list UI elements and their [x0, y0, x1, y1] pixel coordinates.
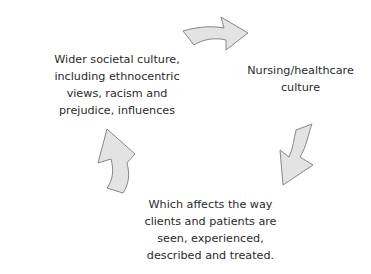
node-societal-culture: Wider societal culture, including ethnoc… — [52, 51, 182, 119]
cycle-diagram: Wider societal culture, including ethnoc… — [0, 0, 371, 274]
node-line: views, racism and — [52, 85, 182, 102]
node-nursing-culture: Nursing/healthcare culture — [243, 62, 358, 96]
node-line: described and treated. — [143, 247, 278, 264]
node-line: prejudice, influences — [52, 102, 182, 119]
node-line: Nursing/healthcare — [243, 62, 358, 79]
arrow-down-icon — [280, 124, 313, 185]
node-line: including ethnocentric — [52, 68, 182, 85]
node-line: culture — [243, 79, 358, 96]
arrow-up-icon — [98, 129, 135, 193]
node-line: Which affects the way — [143, 196, 278, 213]
node-line: seen, experienced, — [143, 230, 278, 247]
node-client-effects: Which affects the way clients and patien… — [143, 196, 278, 264]
arrow-right-icon — [183, 17, 248, 50]
node-line: clients and patients are — [143, 213, 278, 230]
node-line: Wider societal culture, — [52, 51, 182, 68]
